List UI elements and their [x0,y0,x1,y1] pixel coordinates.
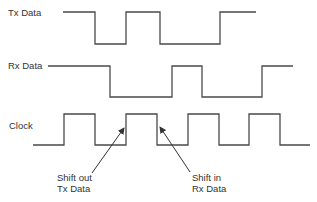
clock-waveform [33,114,310,145]
annotation-arrows [92,127,190,173]
timing-diagram: Tx Data Rx Data Clock Shift out Tx Data … [0,0,317,202]
shift-out-label-line2: Tx Data [57,183,90,194]
shift-out-label-line1: Shift out [57,172,92,183]
tx-data-label: Tx Data [8,7,41,18]
shift-in-label-line1: Shift in [192,172,221,183]
rx-data-label: Rx Data [8,60,42,71]
tx-data-waveform [63,12,256,44]
shift-in-label-line2: Rx Data [192,183,226,194]
shift-out-arrow-icon [92,128,124,173]
waveform-canvas [0,0,317,202]
rx-data-waveform [48,66,293,97]
shift-in-arrow-icon [160,127,190,172]
signal-waveforms [33,12,310,145]
clock-label: Clock [9,120,33,131]
